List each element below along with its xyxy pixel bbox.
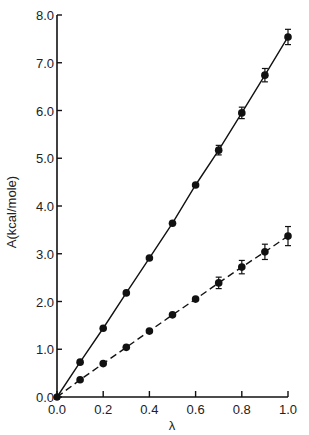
- data-point: [238, 263, 246, 271]
- y-tick-label: 2.0: [36, 295, 54, 310]
- line-chart: 0.01.02.03.04.05.06.07.08.00.00.20.40.60…: [0, 0, 309, 435]
- data-point: [146, 327, 154, 335]
- data-point: [76, 358, 84, 366]
- data-point: [169, 311, 177, 319]
- data-point: [261, 248, 269, 256]
- x-axis-label: λ: [169, 418, 176, 433]
- y-tick-label: 6.0: [36, 104, 54, 119]
- data-point: [123, 344, 131, 352]
- x-tick-label: 0.2: [94, 402, 112, 417]
- x-tick-label: 0.0: [48, 402, 66, 417]
- y-tick-label: 8.0: [36, 8, 54, 23]
- data-point: [123, 289, 131, 297]
- series-dashed: [54, 227, 292, 401]
- x-tick-label: 1.0: [279, 402, 297, 417]
- data-point: [54, 394, 61, 401]
- data-point: [192, 181, 200, 189]
- x-tick-label: 0.8: [233, 402, 251, 417]
- x-tick-label: 0.6: [187, 402, 205, 417]
- data-point: [146, 254, 154, 262]
- data-point: [261, 71, 269, 79]
- data-point: [215, 146, 223, 154]
- y-tick-label: 3.0: [36, 247, 54, 262]
- data-point: [284, 232, 292, 240]
- data-point: [284, 33, 292, 41]
- series-line: [57, 37, 288, 397]
- data-point: [192, 295, 200, 303]
- y-tick-label: 7.0: [36, 56, 54, 71]
- data-point: [215, 279, 223, 287]
- data-point: [99, 324, 107, 332]
- x-tick-label: 0.4: [140, 402, 158, 417]
- data-point: [76, 376, 84, 384]
- y-axis-label: A(kcal/mole): [4, 176, 19, 248]
- data-point: [169, 219, 177, 227]
- y-tick-label: 1.0: [36, 342, 54, 357]
- y-tick-label: 4.0: [36, 199, 54, 214]
- data-point: [238, 109, 246, 117]
- y-tick-label: 5.0: [36, 151, 54, 166]
- data-point: [99, 360, 107, 368]
- series-group: [54, 29, 292, 400]
- series-solid: [54, 29, 292, 400]
- axes: 0.01.02.03.04.05.06.07.08.00.00.20.40.60…: [36, 8, 297, 417]
